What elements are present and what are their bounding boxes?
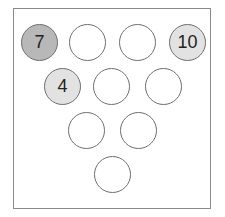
pin-2 bbox=[68, 112, 105, 149]
pin-5 bbox=[93, 68, 130, 105]
pin-6 bbox=[145, 68, 182, 105]
pin-9 bbox=[119, 24, 156, 61]
pin-1 bbox=[94, 156, 131, 193]
pin-8 bbox=[69, 24, 106, 61]
pin-10: 10 bbox=[169, 24, 206, 61]
pin-4: 4 bbox=[44, 68, 81, 105]
pin-7: 7 bbox=[21, 24, 58, 61]
pin-3 bbox=[120, 112, 157, 149]
